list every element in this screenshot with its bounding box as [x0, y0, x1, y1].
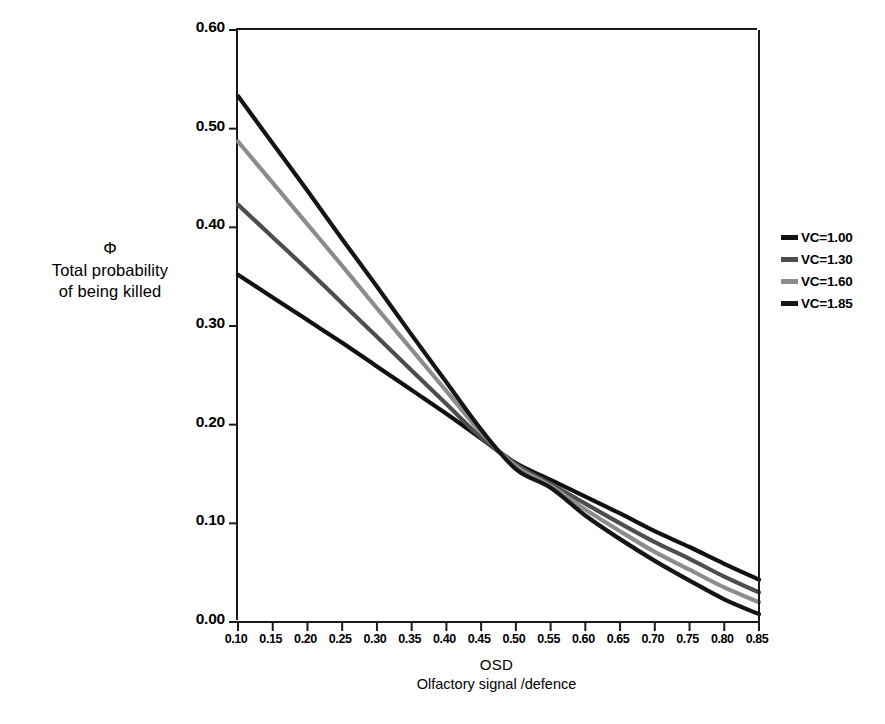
legend-label: VC=1.60	[801, 274, 853, 289]
y-tick-label: 0.00	[165, 610, 225, 628]
x-tick-label: 0.85	[737, 632, 777, 646]
y-tick-label: 0.10	[165, 511, 225, 529]
legend-swatch-icon	[781, 235, 798, 240]
legend: VC=1.00VC=1.30VC=1.60VC=1.85	[781, 226, 885, 314]
y-axis-tick-marks	[229, 30, 238, 622]
plot-area	[236, 28, 757, 620]
legend-item-vc-1-60[interactable]: VC=1.60	[781, 270, 885, 292]
y-tick-label: 0.60	[165, 18, 225, 36]
y-axis-label-line2: of being killed	[10, 281, 210, 302]
series-line-vc-1-85	[238, 96, 759, 614]
y-tick-label: 0.40	[165, 215, 225, 233]
x-axis-label: OSD Olfactory signal /defence	[236, 655, 757, 693]
series-line-vc-1-30	[238, 205, 759, 593]
series-line-vc-1-60	[238, 141, 759, 602]
y-tick-label: 0.20	[165, 413, 225, 431]
series-line-vc-1-00	[238, 275, 759, 580]
y-axis-label-line1: Total probability	[10, 260, 210, 281]
figure: Φ Total probability of being killed 0.00…	[0, 0, 885, 724]
y-axis-symbol: Φ	[10, 238, 210, 260]
legend-item-vc-1-00[interactable]: VC=1.00	[781, 226, 885, 248]
y-tick-label: 0.30	[165, 314, 225, 332]
legend-item-vc-1-85[interactable]: VC=1.85	[781, 292, 885, 314]
series-group	[238, 96, 759, 614]
y-tick-label: 0.50	[165, 117, 225, 135]
y-axis-label: Φ Total probability of being killed	[10, 238, 210, 302]
legend-label: VC=1.30	[801, 252, 853, 267]
legend-item-vc-1-30[interactable]: VC=1.30	[781, 248, 885, 270]
plot-svg	[236, 28, 761, 624]
caption-remnant	[22, 706, 442, 720]
legend-label: VC=1.85	[801, 296, 853, 311]
legend-swatch-icon	[781, 257, 798, 262]
x-axis-label-main: OSD	[236, 655, 757, 675]
x-axis-label-sub: Olfactory signal /defence	[236, 675, 757, 694]
legend-swatch-icon	[781, 279, 798, 284]
legend-label: VC=1.00	[801, 230, 853, 245]
legend-swatch-icon	[781, 301, 798, 306]
